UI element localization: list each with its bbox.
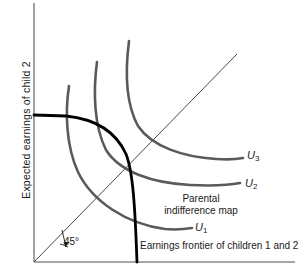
indifference-map-chart xyxy=(0,0,301,274)
curve-label-u1-subscript: 1 xyxy=(203,226,207,235)
curve-label-u2-subscript: 2 xyxy=(253,182,257,191)
figure-container: Expected earnings of child 2 U3 U2 U1 Pa… xyxy=(0,0,301,274)
curve-label-u1-text: U xyxy=(195,221,203,233)
curve-label-u3-subscript: 3 xyxy=(255,154,259,163)
frontier-annotation: Earnings frontier of children 1 and 2 xyxy=(140,240,298,252)
indifference-map-annotation-line2: indifference map xyxy=(153,205,249,217)
curve-label-u1: U1 xyxy=(195,221,207,235)
indifference-map-annotation-line1: Parental xyxy=(153,193,249,205)
indifference-map-annotation: Parental indifference map xyxy=(153,193,249,216)
curve-label-u3: U3 xyxy=(247,149,259,163)
y-axis-title: Expected earnings of child 2 xyxy=(20,50,32,210)
indifference-curve-u3 xyxy=(127,41,243,159)
indifference-curve-u2 xyxy=(95,62,240,185)
earnings-frontier-curve xyxy=(34,115,137,262)
angle-annotation: 45° xyxy=(64,236,79,248)
curve-label-u2: U2 xyxy=(245,177,257,191)
curve-label-u3-text: U xyxy=(247,149,255,161)
curve-label-u2-text: U xyxy=(245,177,253,189)
